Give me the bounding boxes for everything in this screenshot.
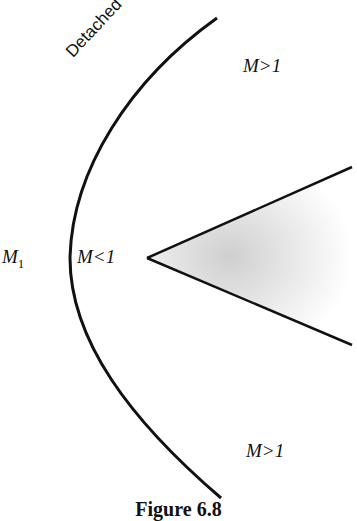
freestream-subscript: 1 — [18, 256, 25, 271]
label-freestream-mach: M1 — [2, 246, 24, 272]
freestream-symbol: M — [2, 246, 18, 267]
label-supersonic-top: M>1 — [243, 55, 281, 77]
wedge-body — [147, 167, 352, 345]
label-subsonic: M<1 — [77, 246, 115, 268]
figure-caption: Figure 6.8 — [0, 498, 357, 521]
label-supersonic-bottom: M>1 — [246, 440, 284, 462]
